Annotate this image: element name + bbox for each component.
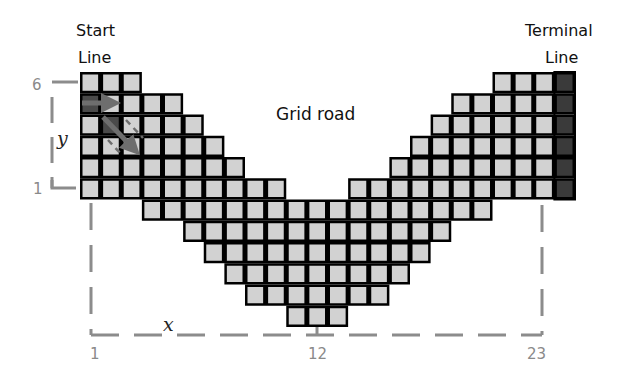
road-cell bbox=[351, 287, 367, 303]
road-cell bbox=[392, 181, 408, 197]
road-cell bbox=[309, 266, 325, 282]
terminal-cell bbox=[557, 75, 573, 91]
road-cell bbox=[474, 138, 490, 154]
start-line-label-1: Start bbox=[76, 22, 115, 40]
road-cell bbox=[495, 117, 511, 133]
road-cell bbox=[536, 181, 552, 197]
road-cell bbox=[186, 181, 202, 197]
road-cell bbox=[454, 117, 470, 133]
road-cell bbox=[392, 160, 408, 176]
road-cell bbox=[103, 138, 119, 154]
road-cell bbox=[309, 287, 325, 303]
road-cell bbox=[413, 181, 429, 197]
road-cell bbox=[474, 96, 490, 112]
terminal-line-label-2: Line bbox=[545, 49, 578, 67]
y-tick-bottom: 1 bbox=[33, 181, 43, 197]
road-cell bbox=[516, 117, 532, 133]
terminal-cell bbox=[557, 117, 573, 133]
road-cell bbox=[516, 181, 532, 197]
road-cell bbox=[165, 202, 181, 218]
road-cell bbox=[206, 181, 222, 197]
road-cell bbox=[103, 75, 119, 91]
road-cell bbox=[83, 181, 99, 197]
road-cell bbox=[103, 181, 119, 197]
road-cell bbox=[351, 266, 367, 282]
road-cell bbox=[206, 202, 222, 218]
road-cell bbox=[309, 223, 325, 239]
terminal-line-label-1: Terminal bbox=[525, 22, 593, 40]
road-cell bbox=[206, 245, 222, 261]
road-cell bbox=[474, 160, 490, 176]
road-cell bbox=[227, 266, 243, 282]
road-cell bbox=[516, 75, 532, 91]
road-cell bbox=[454, 96, 470, 112]
road-cell bbox=[83, 138, 99, 154]
road-cell bbox=[124, 181, 140, 197]
road-cell bbox=[536, 138, 552, 154]
road-cell bbox=[248, 245, 264, 261]
road-cell bbox=[474, 202, 490, 218]
terminal-cell bbox=[557, 160, 573, 176]
road-cell bbox=[516, 96, 532, 112]
road-cell bbox=[351, 245, 367, 261]
road-cell bbox=[186, 202, 202, 218]
road-cell bbox=[186, 160, 202, 176]
road-cell bbox=[454, 160, 470, 176]
road-cell bbox=[227, 223, 243, 239]
road-cell bbox=[495, 160, 511, 176]
road-cell bbox=[371, 202, 387, 218]
grid-road-label: Grid road bbox=[276, 105, 355, 123]
start-line-label-2: Line bbox=[78, 49, 111, 67]
y-bottom-tick bbox=[52, 180, 76, 188]
road-cell bbox=[309, 245, 325, 261]
road-cell bbox=[165, 181, 181, 197]
road-cell bbox=[371, 181, 387, 197]
road-cell bbox=[433, 181, 449, 197]
road-cell bbox=[83, 117, 99, 133]
road-cell bbox=[351, 223, 367, 239]
road-cell bbox=[144, 202, 160, 218]
road-cell bbox=[124, 160, 140, 176]
road-cell bbox=[206, 160, 222, 176]
road-cell bbox=[289, 202, 305, 218]
road-segment bbox=[80, 115, 204, 136]
road-cell bbox=[536, 75, 552, 91]
x-tick-left: 1 bbox=[90, 346, 100, 362]
road-cell bbox=[454, 181, 470, 197]
road-cell bbox=[289, 266, 305, 282]
road-cell bbox=[330, 308, 346, 324]
road-cell bbox=[248, 202, 264, 218]
road-cell bbox=[289, 308, 305, 324]
road-cell bbox=[144, 181, 160, 197]
y-tick-top: 6 bbox=[32, 77, 42, 93]
road-cell bbox=[536, 160, 552, 176]
terminal-cell bbox=[557, 138, 573, 154]
x-tick-mid: 12 bbox=[308, 346, 327, 362]
road-cell bbox=[413, 160, 429, 176]
road-cell bbox=[351, 181, 367, 197]
x-axis-variable: x bbox=[163, 314, 174, 334]
road-cell bbox=[495, 138, 511, 154]
road-cell bbox=[144, 138, 160, 154]
terminal-cell bbox=[557, 96, 573, 112]
road-cell bbox=[206, 138, 222, 154]
road-cell bbox=[248, 181, 264, 197]
road-cell bbox=[454, 138, 470, 154]
road-cell bbox=[227, 245, 243, 261]
y-axis-variable: y bbox=[57, 128, 68, 148]
road-cell bbox=[392, 266, 408, 282]
road-cell bbox=[268, 287, 284, 303]
road-segment bbox=[451, 93, 575, 114]
road-cell bbox=[165, 138, 181, 154]
x-tick-right: 23 bbox=[527, 346, 546, 362]
road-cell bbox=[309, 202, 325, 218]
road-cell bbox=[454, 202, 470, 218]
road-cell bbox=[330, 202, 346, 218]
road-cell bbox=[124, 96, 140, 112]
road-cell bbox=[351, 202, 367, 218]
road-cell bbox=[83, 160, 99, 176]
road-cell bbox=[227, 202, 243, 218]
road-cell bbox=[392, 223, 408, 239]
road-cell bbox=[371, 245, 387, 261]
road-cell bbox=[289, 245, 305, 261]
